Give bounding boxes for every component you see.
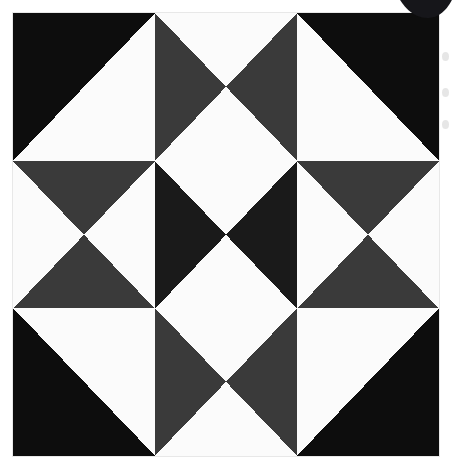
quilt-block-bottom-center <box>155 308 297 456</box>
quilt-block-top-center <box>155 13 297 161</box>
margin-mark-icon <box>442 88 449 97</box>
quilt-block-bottom-left <box>13 308 155 456</box>
quilt-block-grid <box>13 13 439 456</box>
quilt-block-middle-center <box>155 161 297 309</box>
quilt-block-top-left <box>13 13 155 161</box>
margin-mark-icon <box>442 120 449 129</box>
image-canvas <box>0 0 454 473</box>
margin-mark-icon <box>442 52 449 61</box>
quilt-block-top-right <box>297 13 439 161</box>
quilt-block-bottom-right <box>297 308 439 456</box>
quilt-block-middle-right <box>297 161 439 309</box>
quilt-block-middle-left <box>13 161 155 309</box>
